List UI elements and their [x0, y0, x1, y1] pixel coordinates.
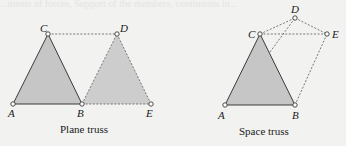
- plane-node-b: [80, 102, 84, 106]
- plane-node-e: [149, 102, 153, 106]
- space-label-a: A: [217, 109, 225, 121]
- plane-label-b: B: [77, 107, 84, 119]
- plane-node-d: [115, 32, 119, 36]
- plane-triangle-bde-fill: [82, 34, 151, 104]
- space-node-c: [258, 32, 262, 36]
- space-truss: A B C D E Space truss: [217, 3, 339, 137]
- truss-diagram: A B C D E Plane truss A B C D E Space tr…: [0, 0, 346, 146]
- plane-label-a: A: [7, 107, 15, 119]
- space-member-cd: [260, 18, 295, 34]
- space-node-e: [325, 32, 329, 36]
- space-member-bd: [270, 18, 295, 52]
- space-label-c: C: [248, 28, 256, 40]
- space-truss-caption: Space truss: [239, 125, 289, 137]
- space-node-d: [293, 16, 297, 20]
- space-member-be: [295, 34, 327, 105]
- plane-label-c: C: [40, 22, 48, 34]
- plane-node-a: [11, 102, 15, 106]
- space-node-b: [293, 103, 297, 107]
- plane-truss-caption: Plane truss: [60, 123, 108, 135]
- space-label-b: B: [292, 109, 299, 121]
- plane-label-d: D: [119, 22, 128, 34]
- space-label-d: D: [290, 3, 299, 15]
- plane-label-e: E: [145, 107, 153, 119]
- space-node-a: [223, 103, 227, 107]
- plane-truss: A B C D E Plane truss: [7, 22, 153, 135]
- plane-triangle-abc-fill: [13, 34, 82, 104]
- space-triangle-abc-fill: [225, 34, 295, 105]
- space-label-e: E: [331, 28, 339, 40]
- space-member-de: [295, 18, 327, 34]
